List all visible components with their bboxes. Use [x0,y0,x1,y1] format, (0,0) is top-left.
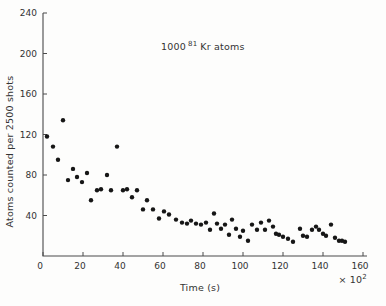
figure-page: 4080120160200240020406080100120140160 At… [0,0,386,306]
data-point [281,235,285,239]
x-axis-label: Time (s) [150,282,250,293]
data-point [174,217,178,221]
data-point [135,188,139,192]
data-point [157,216,161,220]
data-point [324,234,328,238]
scale-exponent: 2 [362,273,367,281]
data-point [167,212,171,216]
data-point [95,188,99,192]
data-point [180,220,184,224]
data-point [141,207,145,211]
data-point [241,229,245,233]
data-point [238,235,242,239]
y-tick-label: 40 [26,211,38,221]
data-point [204,220,208,224]
y-tick-label: 240 [20,8,37,18]
data-point [56,158,60,162]
data-point [259,220,263,224]
data-point [267,218,271,222]
data-point [162,209,166,213]
data-point [189,218,193,222]
data-point [329,222,333,226]
data-point [219,227,223,231]
data-point [333,236,337,240]
plot-annotation: 100081Kr atoms [161,41,245,52]
annotation-element: Kr atoms [200,41,244,52]
x-tick-label: 60 [154,261,166,271]
x-tick-label: 160 [351,261,368,271]
data-point [230,217,234,221]
data-point [125,187,129,191]
data-point [151,207,155,211]
data-point [301,234,305,238]
data-point [130,195,134,199]
y-tick-label: 200 [20,49,37,59]
data-point [212,211,216,215]
x-axis-scale-note: × 102 [305,274,367,285]
data-point [61,118,65,122]
data-point [317,228,321,232]
data-point [277,233,281,237]
data-point [66,178,70,182]
data-point [263,228,267,232]
data-point [271,224,275,228]
data-point [89,198,93,202]
data-point [343,240,347,244]
data-point [246,239,250,243]
data-point [255,228,259,232]
data-point [121,188,125,192]
x-tick-label: 80 [194,261,206,271]
data-point [75,175,79,179]
data-point [109,188,113,192]
data-point [286,237,290,241]
x-tick-label: 100 [231,261,248,271]
data-point [291,240,295,244]
y-tick-label: 80 [26,170,38,180]
data-point [145,198,149,202]
y-axis-label: Atoms counted per 2500 shots [4,27,15,277]
data-point [71,167,75,171]
data-point [80,180,84,184]
data-point [105,173,109,177]
x-tick-label: 40 [114,261,126,271]
data-point [194,221,198,225]
data-point [310,228,314,232]
data-point [85,171,89,175]
data-point [215,221,219,225]
x-tick-label: 120 [271,261,288,271]
data-point [250,222,254,226]
data-point [227,233,231,237]
data-point [99,187,103,191]
annotation-count: 1000 [161,41,186,52]
scale-base: × 10 [338,274,362,285]
data-point [45,134,49,138]
x-tick-label: 140 [311,261,328,271]
y-tick-label: 120 [20,130,37,140]
y-tick-label: 160 [20,89,37,99]
data-point [298,227,302,231]
x-tick-label: 0 [37,261,43,271]
data-point [185,221,189,225]
data-point [208,228,212,232]
data-point [199,222,203,226]
data-point [51,144,55,148]
x-tick-label: 20 [74,261,86,271]
data-point [234,227,238,231]
isotope-superscript: 81 [188,40,197,48]
data-point [115,144,119,148]
data-point [223,222,227,226]
data-point [305,235,309,239]
